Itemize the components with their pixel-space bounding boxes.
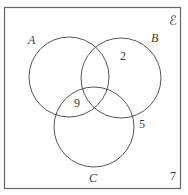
venn-diagram: [0, 0, 188, 195]
set-b-label: B: [151, 32, 158, 44]
set-a-label: A: [28, 34, 35, 46]
region-outside-5-value: 5: [139, 118, 145, 130]
universal-set-symbol: ℰ: [169, 15, 177, 27]
set-c-label: C: [89, 172, 97, 184]
region-outside-7-value: 7: [170, 170, 176, 182]
set-c-circle: [54, 87, 134, 167]
region-a-c-value: 9: [74, 97, 80, 109]
region-b-only-value: 2: [120, 50, 126, 62]
set-a-circle: [29, 37, 109, 117]
